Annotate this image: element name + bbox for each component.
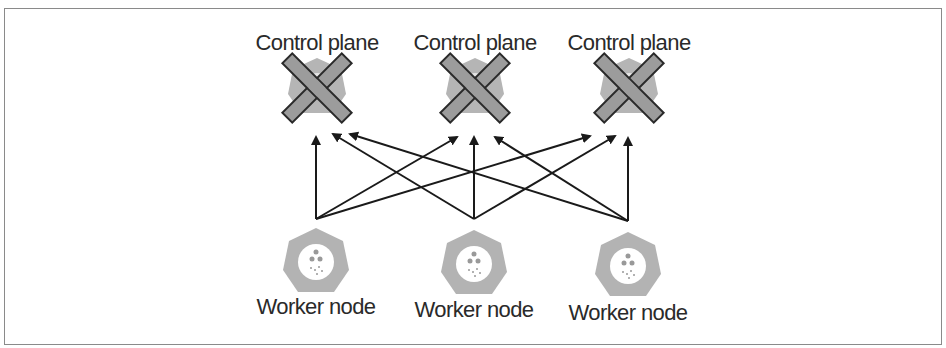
control-plane-3-icon — [594, 53, 663, 122]
control-plane-2-label: Control plane — [413, 30, 536, 56]
connection-arrows — [316, 134, 628, 221]
control-plane-1-label: Control plane — [255, 30, 378, 56]
worker-node-1-label: Worker node — [257, 294, 376, 320]
worker-node-3-label: Worker node — [569, 300, 688, 326]
worker-node-2-label: Worker node — [415, 297, 534, 323]
control-plane-2-icon — [440, 53, 509, 122]
control-plane-1-icon — [282, 53, 351, 122]
worker-node-3-icon — [595, 232, 661, 296]
worker-node-1-icon — [283, 228, 349, 292]
control-plane-3-label: Control plane — [567, 30, 690, 56]
worker-node-2-icon — [441, 230, 507, 294]
